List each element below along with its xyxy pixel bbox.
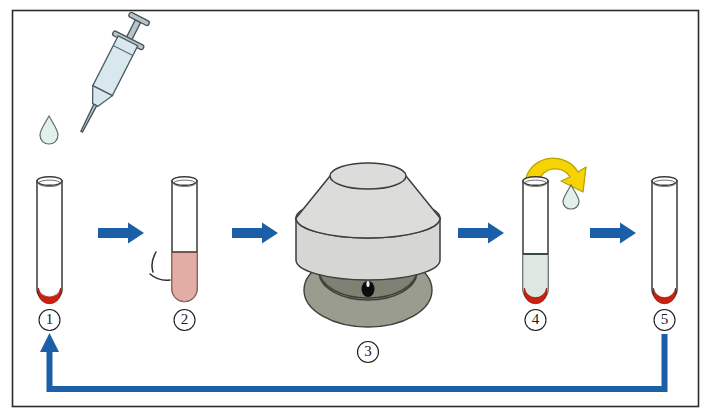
test-tube-with-pellet <box>37 177 62 304</box>
tube5-glass <box>652 181 677 302</box>
centrifuge-knob-highlight <box>366 281 369 287</box>
step-5-number: 5 <box>661 311 669 327</box>
test-tube-washed-pellet <box>652 177 677 304</box>
test-tube-resuspended <box>172 177 197 302</box>
diagram-canvas: 1 2 <box>0 0 711 417</box>
test-tube-after-spin <box>523 177 548 304</box>
tube1-glass <box>37 181 62 302</box>
step-1-number: 1 <box>46 311 54 327</box>
step-3-number: 3 <box>364 343 372 359</box>
procedure-figure: 1 2 <box>0 0 711 417</box>
step-2-number: 2 <box>181 311 189 327</box>
step-4-number: 4 <box>532 311 540 327</box>
centrifuge-lid-cap <box>330 163 406 189</box>
tube2-suspension <box>172 252 197 302</box>
